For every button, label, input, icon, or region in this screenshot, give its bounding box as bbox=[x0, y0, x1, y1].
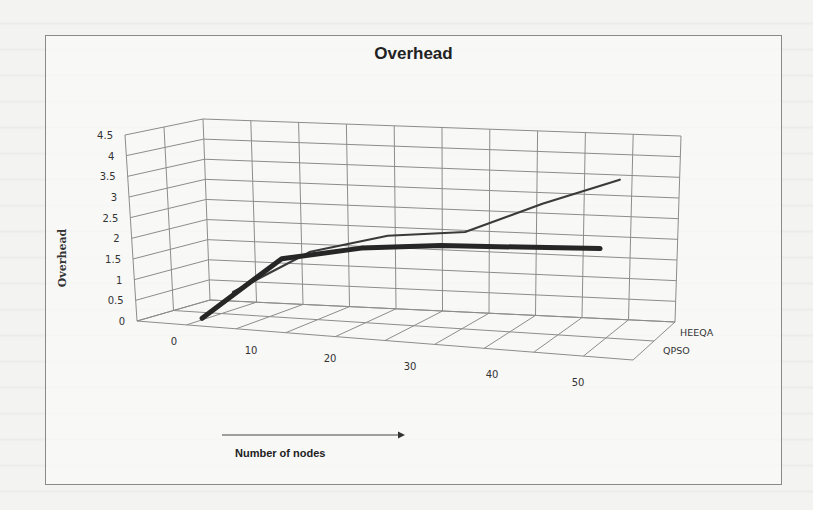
y-tick-label: 1 bbox=[116, 275, 122, 286]
x-tick-label: 20 bbox=[324, 353, 337, 364]
y-tick-label: 1.5 bbox=[105, 254, 121, 265]
y-tick-label: 2 bbox=[113, 233, 119, 244]
y-axis-ticks: 00.511.522.533.544.5 bbox=[97, 130, 125, 327]
depth-label-heeqa: HEEQA bbox=[680, 327, 714, 338]
y-tick-label: 0 bbox=[119, 316, 125, 327]
chart-plot: 00.511.522.533.544.5 01020304050 HEEQA Q… bbox=[0, 0, 813, 510]
x-tick-label: 0 bbox=[171, 336, 177, 347]
side-wall-grid bbox=[125, 119, 210, 321]
back-wall-grid bbox=[203, 119, 681, 322]
x-tick-label: 50 bbox=[572, 377, 585, 388]
x-axis-ticks: 01020304050 bbox=[171, 336, 585, 388]
y-tick-label: 4 bbox=[108, 151, 114, 162]
x-tick-label: 30 bbox=[404, 361, 417, 372]
depth-label-qpso: QPSO bbox=[663, 345, 690, 356]
x-tick-label: 10 bbox=[245, 345, 258, 356]
y-axis-label: Overhead bbox=[56, 228, 69, 287]
y-tick-label: 4.5 bbox=[97, 130, 113, 141]
y-tick-label: 3 bbox=[111, 192, 117, 203]
y-tick-label: 2.5 bbox=[102, 213, 118, 224]
y-tick-label: 3.5 bbox=[100, 171, 116, 182]
x-tick-label: 40 bbox=[486, 369, 499, 380]
y-tick-label: 0.5 bbox=[108, 295, 124, 306]
x-axis-label: Number of nodes bbox=[235, 447, 325, 459]
arrow-right-icon bbox=[398, 432, 405, 439]
